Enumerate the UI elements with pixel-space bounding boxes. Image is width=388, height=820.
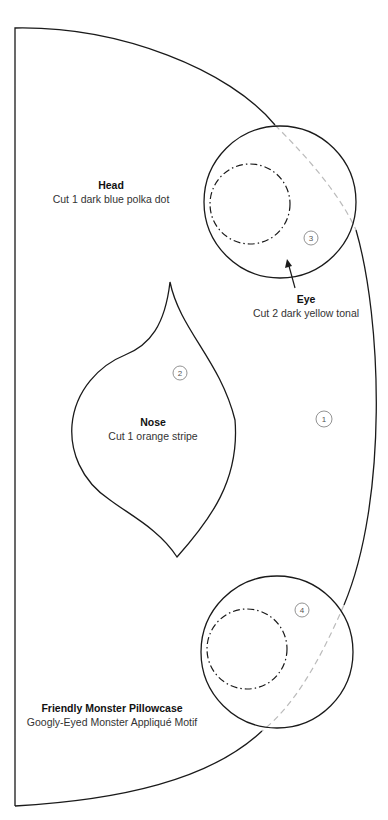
eye-label: Eye Cut 2 dark yellow tonal xyxy=(253,292,359,320)
eye-bottom-outline xyxy=(201,576,353,728)
eye-top-pupil-placement xyxy=(210,164,290,244)
pattern-subtitle: Googly-Eyed Monster Appliqué Motif xyxy=(27,715,197,729)
eye-top-outline xyxy=(204,126,356,278)
head-hidden-line-bottom xyxy=(262,605,344,731)
eye-arrow-head xyxy=(285,259,292,268)
nose-title: Nose xyxy=(108,415,197,429)
head-hidden-line-top xyxy=(275,125,356,230)
head-label: Head Cut 1 dark blue polka dot xyxy=(53,178,170,206)
piece-number-4: 4 xyxy=(300,606,305,615)
head-instruction: Cut 1 dark blue polka dot xyxy=(53,192,170,206)
footer-label: Friendly Monster Pillowcase Googly-Eyed … xyxy=(27,701,197,729)
piece-number-1: 1 xyxy=(322,415,327,424)
nose-label: Nose Cut 1 orange stripe xyxy=(108,415,197,443)
head-title: Head xyxy=(53,178,170,192)
eye-instruction: Cut 2 dark yellow tonal xyxy=(253,306,359,320)
eye-bottom-pupil-placement xyxy=(207,609,287,689)
piece-number-3: 3 xyxy=(309,234,314,243)
pattern-diagram: 3 4 2 1 xyxy=(0,0,388,820)
pattern-title: Friendly Monster Pillowcase xyxy=(27,701,197,715)
piece-number-2: 2 xyxy=(178,369,183,378)
nose-instruction: Cut 1 orange stripe xyxy=(108,429,197,443)
eye-title: Eye xyxy=(253,292,359,306)
